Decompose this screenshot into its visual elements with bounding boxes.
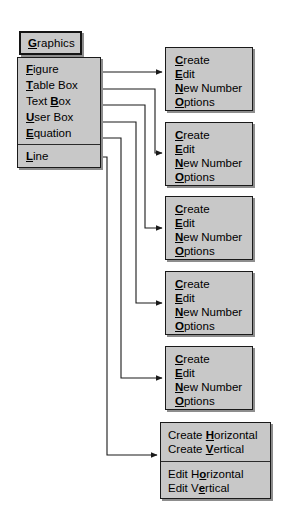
graphics-menubar-button[interactable]: Graphics	[19, 31, 82, 55]
menu-item-line[interactable]: Line	[18, 148, 100, 164]
submenu-item-new-number[interactable]: New Number	[166, 380, 252, 394]
submenu-figure[interactable]: Create Edit New Number Options	[165, 47, 253, 111]
connector-equation	[78, 138, 162, 378]
submenu-item-edit[interactable]: Edit	[166, 291, 252, 305]
submenu-text-box[interactable]: Create Edit New Number Options	[165, 196, 253, 260]
submenu-item-edit[interactable]: Edit	[166, 216, 252, 230]
submenu-item-create[interactable]: Create	[166, 128, 252, 142]
submenu-item-edit-vertical[interactable]: Edit Vertical	[161, 481, 270, 495]
submenu-item-edit-horizontal[interactable]: Edit Horizontal	[161, 467, 270, 481]
submenu-item-edit[interactable]: Edit	[166, 366, 252, 380]
submenu-item-options[interactable]: Options	[166, 95, 252, 109]
menu-item-equation[interactable]: Equation	[18, 125, 100, 141]
submenu-line[interactable]: Create Horizontal Create Vertical Edit H…	[160, 422, 271, 499]
menu-item-text-box[interactable]: Text Box	[18, 93, 100, 109]
submenu-item-create[interactable]: Create	[166, 53, 252, 67]
submenu-item-options[interactable]: Options	[166, 244, 252, 258]
submenu-line-group-edit: Edit Horizontal Edit Vertical	[161, 461, 270, 500]
menu-item-user-box[interactable]: User Box	[18, 109, 100, 125]
submenu-item-create-horizontal[interactable]: Create Horizontal	[161, 428, 270, 442]
submenu-item-new-number[interactable]: New Number	[166, 81, 252, 95]
menu-item-table-box[interactable]: Table Box	[18, 77, 100, 93]
submenu-item-options[interactable]: Options	[166, 170, 252, 184]
submenu-item-new-number[interactable]: New Number	[166, 230, 252, 244]
submenu-item-edit[interactable]: Edit	[166, 67, 252, 81]
submenu-item-edit[interactable]: Edit	[166, 142, 252, 156]
graphics-dropdown-menu[interactable]: Figure Table Box Text Box User Box Equat…	[17, 57, 101, 168]
submenu-table-box[interactable]: Create Edit New Number Options	[165, 122, 253, 186]
submenu-item-options[interactable]: Options	[166, 394, 252, 408]
submenu-item-new-number[interactable]: New Number	[166, 305, 252, 319]
submenu-equation[interactable]: Create Edit New Number Options	[165, 346, 253, 410]
submenu-line-group-create: Create Horizontal Create Vertical	[161, 423, 270, 461]
menu-separator	[18, 144, 100, 145]
submenu-item-new-number[interactable]: New Number	[166, 156, 252, 170]
submenu-item-create[interactable]: Create	[166, 277, 252, 291]
submenu-user-box[interactable]: Create Edit New Number Options	[165, 271, 253, 335]
submenu-item-create[interactable]: Create	[166, 352, 252, 366]
connector-line	[54, 157, 157, 455]
diagram-canvas: Graphics Figure Table Box Text Box User …	[0, 0, 284, 522]
submenu-item-create-vertical[interactable]: Create Vertical	[161, 442, 270, 456]
submenu-item-create[interactable]: Create	[166, 202, 252, 216]
menu-item-figure[interactable]: Figure	[18, 61, 100, 77]
graphics-menubar-button-label: Graphics	[28, 37, 75, 49]
submenu-item-options[interactable]: Options	[166, 319, 252, 333]
